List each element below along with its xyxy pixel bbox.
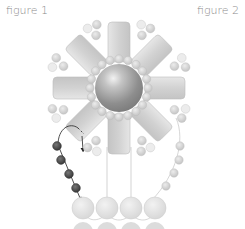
- bottom-partial-bead: [145, 222, 165, 229]
- bottom-partial-bead: [121, 222, 141, 229]
- bottom-large-bead: [96, 197, 118, 219]
- cluster-bead: [52, 114, 61, 123]
- ring-bead: [98, 60, 106, 68]
- petal-bead: [65, 99, 109, 143]
- cluster-bead: [138, 31, 147, 40]
- thread-path-bead: [72, 184, 81, 193]
- right-strand-bead: [170, 169, 178, 177]
- petal: [65, 34, 109, 78]
- petal-bead: [65, 34, 109, 78]
- ring-bead: [87, 93, 95, 101]
- ring-bead: [106, 56, 114, 64]
- petal: [130, 34, 174, 78]
- ring-bead: [91, 101, 99, 109]
- petal-bead: [130, 99, 174, 143]
- ring-bead: [138, 101, 146, 109]
- ring-bead: [132, 60, 140, 68]
- cluster-bead: [92, 136, 101, 145]
- ring-bead: [124, 111, 132, 119]
- cluster-bead: [48, 63, 57, 72]
- ring-bead: [124, 56, 132, 64]
- cluster-bead: [59, 62, 68, 71]
- beading-diagram: [0, 0, 245, 229]
- ring-bead: [87, 75, 95, 83]
- right-strand-bead: [176, 142, 184, 150]
- cluster-bead: [83, 24, 92, 33]
- thread-bottom-loop: [84, 212, 154, 220]
- bottom-partial-bead: [97, 222, 117, 229]
- thread-path-bead: [53, 142, 62, 151]
- cluster-bead: [181, 63, 190, 72]
- ring-bead: [98, 107, 106, 115]
- bottom-large-bead: [144, 197, 166, 219]
- cluster-bead: [137, 20, 146, 29]
- cluster-bead: [170, 62, 179, 71]
- bottom-large-bead: [120, 197, 142, 219]
- cluster-bead: [52, 54, 61, 63]
- ring-bead: [144, 84, 152, 92]
- cluster-bead: [177, 54, 186, 63]
- cluster-bead: [48, 104, 57, 113]
- bottom-large-bead: [72, 197, 94, 219]
- cluster-bead: [92, 147, 101, 156]
- ring-bead: [106, 111, 114, 119]
- petal: [65, 99, 109, 143]
- cluster-bead: [181, 104, 190, 113]
- right-strand-bead: [162, 182, 170, 190]
- ring-bead: [132, 107, 140, 115]
- cluster-bead: [146, 24, 155, 33]
- thread-path-bead: [65, 170, 74, 179]
- cluster-bead: [83, 143, 92, 152]
- ring-bead: [91, 67, 99, 75]
- cluster-bead: [92, 20, 101, 29]
- ring-bead: [142, 75, 150, 83]
- right-strand-bead: [175, 156, 183, 164]
- ring-bead: [115, 55, 123, 63]
- cluster-bead: [146, 143, 155, 152]
- ring-bead: [86, 84, 94, 92]
- center-pearl: [95, 64, 143, 112]
- cluster-bead: [170, 105, 179, 114]
- cluster-bead: [59, 105, 68, 114]
- cluster-bead: [137, 147, 146, 156]
- ring-bead: [142, 93, 150, 101]
- ring-bead: [115, 113, 123, 121]
- cluster-bead: [177, 114, 186, 123]
- thread-path-bead: [57, 156, 66, 165]
- cluster-bead: [92, 31, 101, 40]
- bottom-partial-bead: [73, 222, 93, 229]
- ring-bead: [138, 67, 146, 75]
- petal-bead: [130, 34, 174, 78]
- petal: [130, 99, 174, 143]
- cluster-bead: [138, 136, 147, 145]
